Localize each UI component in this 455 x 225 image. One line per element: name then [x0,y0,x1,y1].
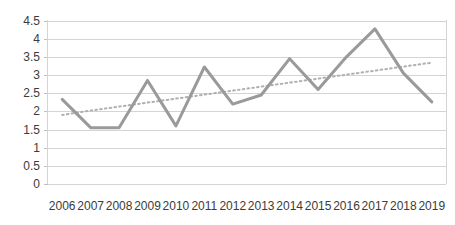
x-axis-tick-label: 2015 [305,200,332,212]
x-axis-tick-label: 2013 [248,200,275,212]
y-axis-tick-label: 3.5 [8,51,40,63]
x-axis-tick-label: 2018 [390,200,417,212]
plot-area [0,0,455,225]
y-axis-tick-label: 4 [8,33,40,45]
x-axis-tick-label: 2017 [362,200,389,212]
y-axis-tick-label: 4.5 [8,15,40,27]
x-axis-tick-label: 2011 [191,200,217,212]
x-axis-tick-label: 2006 [49,200,76,212]
y-axis-tick-label: 0 [8,178,40,190]
x-axis-tick-label: 2014 [276,200,303,212]
y-axis-tick-label: 3 [8,69,40,81]
y-axis-tick-label: 2 [8,105,40,117]
x-axis-tick-label: 2012 [219,200,246,212]
x-axis-tick-label: 2010 [163,200,190,212]
x-axis-tick-label: 2009 [134,200,161,212]
y-axis-tick-label: 1.5 [8,124,40,136]
y-axis-tick-label: 2.5 [8,87,40,99]
x-axis-tick-label: 2019 [418,200,445,212]
y-axis-tick-label: 1 [8,142,40,154]
trendline-series [62,63,432,115]
x-axis-tick-label: 2008 [106,200,133,212]
data-series-line [62,29,432,128]
line-chart: 00.511.522.533.544.5 2006200720082009201… [0,0,455,225]
x-axis-tick-label: 2016 [333,200,360,212]
x-axis-tick-label: 2007 [77,200,104,212]
y-axis-tick-label: 0.5 [8,160,40,172]
